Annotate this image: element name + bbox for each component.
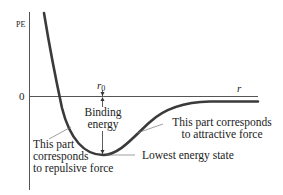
x-axis-label: r bbox=[237, 82, 241, 94]
binding-energy-line2: energy bbox=[79, 118, 127, 130]
binding-energy-line1: Binding bbox=[79, 106, 127, 118]
attractive-line2: to attractive force bbox=[165, 128, 279, 140]
repulsive-line2: corresponds bbox=[33, 150, 113, 162]
lowest-energy-label: Lowest energy state bbox=[142, 149, 234, 161]
r0-label: r0 bbox=[97, 79, 105, 95]
binding-arrow-up-icon bbox=[101, 97, 105, 101]
attractive-leader bbox=[137, 124, 163, 133]
repulsive-line3: to repulsive force bbox=[33, 162, 113, 174]
attractive-force-label: This part corresponds to attractive forc… bbox=[165, 116, 279, 140]
r0-subscript: 0 bbox=[101, 84, 105, 93]
repulsive-line1: This part bbox=[33, 138, 113, 150]
repulsive-force-label: This part corresponds to repulsive force bbox=[33, 138, 113, 174]
y-axis-label: PE bbox=[16, 19, 25, 31]
zero-label: 0 bbox=[19, 90, 25, 102]
attractive-line1: This part corresponds bbox=[165, 116, 279, 128]
binding-energy-label: Binding energy bbox=[79, 106, 127, 130]
